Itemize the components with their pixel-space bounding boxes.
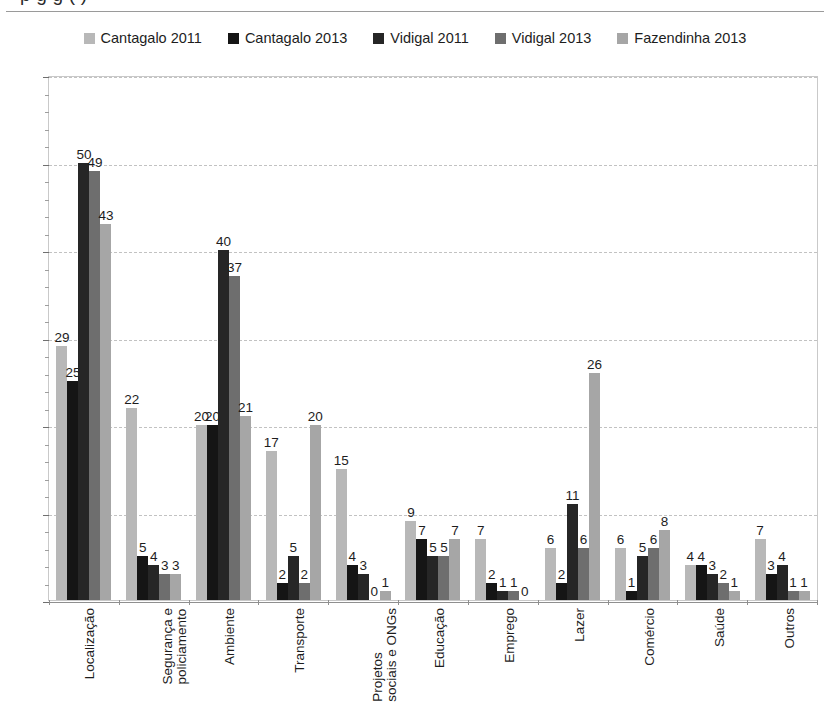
bar[interactable] bbox=[67, 381, 78, 600]
bar[interactable] bbox=[648, 548, 659, 601]
x-axis-category-label-line: Comércio bbox=[643, 608, 657, 666]
x-axis-label-cell: Projetossociais e ONGs bbox=[328, 602, 398, 722]
bar[interactable] bbox=[310, 425, 321, 600]
bar[interactable] bbox=[347, 565, 358, 600]
bar[interactable] bbox=[449, 539, 460, 600]
x-axis-label-cell: Segurança epoliciamento bbox=[118, 602, 188, 722]
x-axis-category-label: Lazer bbox=[573, 608, 587, 642]
x-axis-category-label-line: Educação bbox=[433, 608, 447, 668]
bar[interactable] bbox=[137, 556, 148, 600]
bar[interactable] bbox=[405, 521, 416, 600]
bar-slot: 49 bbox=[89, 77, 100, 600]
bar-slot: 3 bbox=[170, 77, 181, 600]
bar[interactable] bbox=[788, 591, 799, 600]
bar[interactable] bbox=[126, 408, 137, 601]
bar[interactable] bbox=[218, 250, 229, 600]
bar[interactable] bbox=[148, 565, 159, 600]
bar-slot: 20 bbox=[196, 77, 207, 600]
bar[interactable] bbox=[159, 574, 170, 600]
bar[interactable] bbox=[196, 425, 207, 600]
bar-group-bars: 154301 bbox=[328, 77, 398, 600]
x-axis-category-label: Saúde bbox=[713, 608, 727, 647]
x-axis-category-label-line: Localização bbox=[83, 608, 97, 679]
bar-slot: 21 bbox=[240, 77, 251, 600]
bar-slot: 26 bbox=[589, 77, 600, 600]
bar[interactable] bbox=[755, 539, 766, 600]
bar-slot: 40 bbox=[218, 77, 229, 600]
bar[interactable] bbox=[508, 591, 519, 600]
bar[interactable] bbox=[497, 591, 508, 600]
x-axis-label-cell: Outros bbox=[748, 602, 818, 722]
bar[interactable] bbox=[299, 583, 310, 601]
bar[interactable] bbox=[100, 224, 111, 600]
bar-slot: 7 bbox=[449, 77, 460, 600]
bar-slot: 6 bbox=[578, 77, 589, 600]
bar-slot: 11 bbox=[567, 77, 578, 600]
bar-group-bars: 6211626 bbox=[538, 77, 608, 600]
bar-slot: 1 bbox=[626, 77, 637, 600]
bar[interactable] bbox=[170, 574, 181, 600]
bar-slot: 4 bbox=[347, 77, 358, 600]
bar[interactable] bbox=[229, 276, 240, 600]
bar-slot: 7 bbox=[416, 77, 427, 600]
bar-slot: 17 bbox=[266, 77, 277, 600]
bar[interactable] bbox=[358, 574, 369, 600]
bar[interactable] bbox=[486, 583, 497, 601]
bar-group-bars: 97557 bbox=[398, 77, 468, 600]
bar[interactable] bbox=[207, 425, 218, 600]
bar[interactable] bbox=[626, 591, 637, 600]
bar[interactable] bbox=[288, 556, 299, 600]
bar-group: 44321 bbox=[677, 77, 747, 600]
bar-group: 225433 bbox=[119, 77, 189, 600]
legend-swatch-icon bbox=[84, 33, 95, 44]
bar-group: 154301 bbox=[328, 77, 398, 600]
bar[interactable] bbox=[777, 565, 788, 600]
bar[interactable] bbox=[416, 539, 427, 600]
bar[interactable] bbox=[556, 583, 567, 601]
bar[interactable] bbox=[799, 591, 810, 600]
bar[interactable] bbox=[718, 583, 729, 601]
bar[interactable] bbox=[578, 548, 589, 601]
bar[interactable] bbox=[637, 556, 648, 600]
x-axis-category-label-line: Projetos bbox=[371, 608, 385, 702]
bar-slot: 6 bbox=[648, 77, 659, 600]
bar[interactable] bbox=[266, 451, 277, 600]
bar-group: 72110 bbox=[468, 77, 538, 600]
bar-slot: 3 bbox=[766, 77, 777, 600]
bar-group-bars: 2925504943 bbox=[49, 77, 119, 600]
bar[interactable] bbox=[729, 591, 740, 600]
x-axis-label-cell: Transporte bbox=[258, 602, 328, 722]
bar-group: 1725220 bbox=[258, 77, 328, 600]
bar[interactable] bbox=[696, 565, 707, 600]
bar[interactable] bbox=[240, 416, 251, 600]
bar[interactable] bbox=[78, 163, 89, 601]
bar-slot: 2 bbox=[486, 77, 497, 600]
bar[interactable] bbox=[685, 565, 696, 600]
bar-group-bars: 225433 bbox=[119, 77, 189, 600]
bar-slot: 37 bbox=[229, 77, 240, 600]
bar[interactable] bbox=[56, 346, 67, 600]
bar[interactable] bbox=[438, 556, 449, 600]
bar[interactable] bbox=[567, 504, 578, 600]
bar[interactable] bbox=[589, 373, 600, 601]
bar[interactable] bbox=[707, 574, 718, 600]
bar-slot: 20 bbox=[310, 77, 321, 600]
bar-slot: 5 bbox=[438, 77, 449, 600]
bar[interactable] bbox=[545, 548, 556, 601]
bar[interactable] bbox=[766, 574, 777, 600]
legend-item: Fazendinha 2013 bbox=[617, 30, 746, 46]
bar-slot: 2 bbox=[277, 77, 288, 600]
x-axis-label-cell: Emprego bbox=[468, 602, 538, 722]
bar[interactable] bbox=[380, 591, 391, 600]
bar[interactable] bbox=[89, 171, 100, 600]
legend-item: Cantagalo 2011 bbox=[84, 30, 202, 46]
bar[interactable] bbox=[615, 548, 626, 601]
bar[interactable] bbox=[427, 556, 438, 600]
bar-slot: 1 bbox=[788, 77, 799, 600]
legend-label: Vidigal 2013 bbox=[512, 30, 592, 46]
bar[interactable] bbox=[336, 469, 347, 600]
bar[interactable] bbox=[277, 583, 288, 601]
bar[interactable] bbox=[475, 539, 486, 600]
x-axis-label-cell: Localização bbox=[48, 602, 118, 722]
bar[interactable] bbox=[659, 530, 670, 600]
